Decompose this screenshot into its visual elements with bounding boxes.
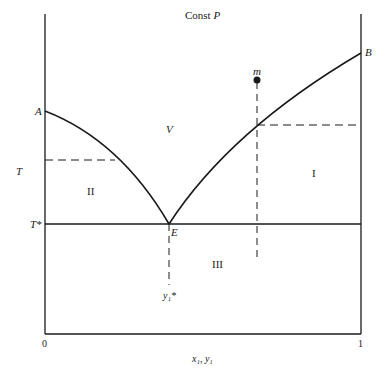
x-max-label: 1	[358, 338, 363, 349]
title-text: Const P	[185, 9, 220, 21]
label-e: E	[170, 226, 178, 238]
phase-diagram: Const P A B E m V I II III T T* y₁* 0 1 …	[0, 0, 387, 373]
region-ii-label: II	[87, 185, 95, 197]
label-m: m	[253, 65, 261, 77]
eutectic-temp-label: T*	[30, 218, 42, 230]
region-i-label: I	[312, 167, 316, 179]
label-a: A	[34, 105, 42, 117]
point-m-marker	[254, 77, 261, 84]
label-b: B	[365, 46, 372, 58]
x-min-label: 0	[42, 338, 47, 349]
y-axis-label: T	[16, 165, 23, 177]
liquidus-curve-b	[169, 53, 361, 224]
region-v-label: V	[166, 123, 174, 135]
liquidus-curve-a	[45, 111, 169, 224]
x-axis-label: x₁, y₁	[191, 353, 213, 364]
region-iii-label: III	[212, 258, 223, 270]
eutectic-comp-label: y₁*	[162, 290, 176, 301]
